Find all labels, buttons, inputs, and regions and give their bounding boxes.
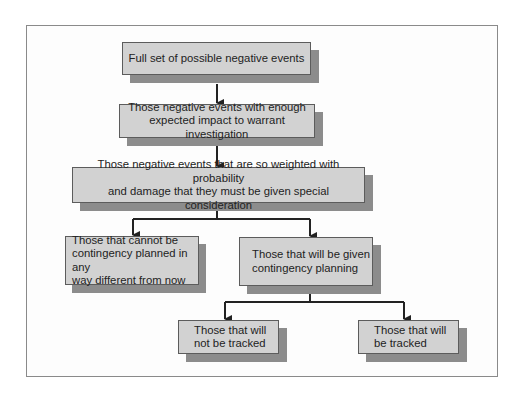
node-label: Those that will be given contingency pla…	[252, 248, 370, 275]
node-label: Those that will be tracked	[374, 324, 446, 351]
node-label: Those negative events that are so weight…	[73, 158, 364, 212]
node-tracked: Those that will be tracked	[358, 320, 459, 354]
node-label: Full set of possible negative events	[129, 52, 305, 66]
node-label: Those negative events with enough expect…	[120, 101, 314, 142]
node-special-consideration: Those negative events that are so weight…	[72, 167, 365, 203]
node-label: Those that will not be tracked	[194, 324, 266, 351]
node-full-set: Full set of possible negative events	[122, 42, 311, 75]
node-not-tracked: Those that will not be tracked	[178, 320, 279, 354]
node-cannot-be-planned: Those that cannot be contingency planned…	[65, 236, 199, 285]
node-contingency-planning: Those that will be given contingency pla…	[239, 237, 373, 286]
node-warrant-investigation: Those negative events with enough expect…	[119, 104, 315, 138]
node-label: Those that cannot be contingency planned…	[72, 234, 198, 288]
